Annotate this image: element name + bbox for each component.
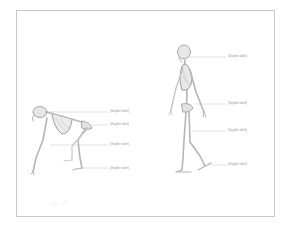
human-leg-standing — [182, 112, 186, 170]
ape-label-3: [illegible label] — [110, 142, 150, 146]
sketch-marks — [52, 200, 66, 205]
human-hand-back — [169, 110, 172, 115]
human-arm-front — [190, 70, 204, 112]
ape-hand — [31, 172, 34, 175]
ape-skull — [33, 107, 47, 118]
ape-ribcage — [52, 114, 72, 134]
ape-jaw — [32, 115, 34, 121]
human-label-4: [illegible label] — [228, 162, 268, 166]
human-leader-lines — [188, 57, 226, 165]
human-ribcage — [180, 64, 192, 90]
human-hand-front — [203, 112, 206, 117]
ape-label-1: [illegible label] — [110, 109, 150, 113]
ape-label-2: [illegible label] — [110, 122, 150, 126]
human-label-3: [illegible label] — [228, 128, 268, 132]
human-pelvis — [182, 104, 193, 113]
human-label-1: [illegible label] — [228, 54, 268, 58]
human-foot-standing — [176, 170, 191, 172]
human-skeleton — [169, 45, 211, 172]
human-label-2: [illegible label] — [228, 101, 268, 105]
human-leg-stride — [189, 112, 205, 166]
ape-forelimb — [33, 118, 47, 172]
ape-foot — [73, 168, 82, 170]
ape-skeleton — [31, 107, 92, 176]
ape-label-4: [illegible label] — [110, 166, 150, 170]
